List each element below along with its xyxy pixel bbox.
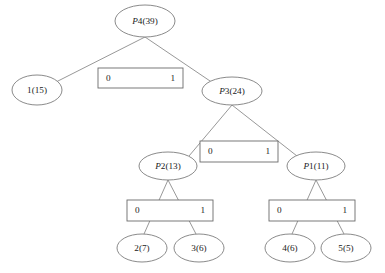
nodes-layer: P4(39)1(15)P3(24)P2(13)P1(11)2(7)3(6)4(6… xyxy=(12,5,371,262)
bit-label-one: 1 xyxy=(265,146,270,156)
node-label: 3(6) xyxy=(191,243,206,253)
tree-node-p4: P4(39) xyxy=(115,5,175,37)
node-label-suffix: 1(11) xyxy=(309,161,329,171)
node-label: 5(5) xyxy=(338,243,353,253)
tree-node-p1: P1(11) xyxy=(287,152,345,180)
tree-node-n1: 1(15) xyxy=(12,75,62,105)
tree-node-p2: P2(13) xyxy=(139,152,197,180)
node-label-suffix: 4(39) xyxy=(138,16,158,26)
tree-node-n3: 3(6) xyxy=(174,234,224,262)
node-label-suffix: 3(24) xyxy=(225,86,245,96)
bit-label-one: 1 xyxy=(200,205,205,215)
node-label: P2(13) xyxy=(154,161,181,171)
node-label: 1(15) xyxy=(27,85,47,95)
tree-node-n4: 4(6) xyxy=(265,234,315,262)
tree-node-n5: 5(5) xyxy=(321,234,371,262)
bit-label-zero: 0 xyxy=(106,73,111,83)
bit-label-zero: 0 xyxy=(208,146,213,156)
decision-box: 01 xyxy=(127,200,213,221)
node-label-suffix: 2(13) xyxy=(161,161,181,171)
node-label: P3(24) xyxy=(218,86,245,96)
huffman-tree-diagram: 01010101 P4(39)1(15)P3(24)P2(13)P1(11)2(… xyxy=(0,0,385,273)
node-label: 4(6) xyxy=(282,243,297,253)
node-label: P1(11) xyxy=(302,161,328,171)
bit-label-one: 1 xyxy=(170,73,175,83)
tree-canvas: 01010101 P4(39)1(15)P3(24)P2(13)P1(11)2(… xyxy=(0,0,385,273)
node-label: P4(39) xyxy=(131,16,158,26)
bit-label-zero: 0 xyxy=(277,205,282,215)
node-label: 2(7) xyxy=(134,243,149,253)
decision-box: 01 xyxy=(269,200,355,221)
tree-node-p3: P3(24) xyxy=(202,77,262,105)
tree-node-n2: 2(7) xyxy=(117,234,167,262)
decision-box: 01 xyxy=(200,141,278,162)
decision-box: 01 xyxy=(98,68,183,88)
bit-label-one: 1 xyxy=(342,205,347,215)
bit-label-zero: 0 xyxy=(135,205,140,215)
